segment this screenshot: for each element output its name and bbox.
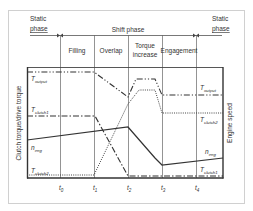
svg-text:phase: phase	[212, 25, 230, 33]
svg-text:neng: neng	[31, 144, 42, 153]
tick-t1-sub: 1	[95, 188, 98, 193]
static-phase-right-line1: Static	[212, 15, 229, 22]
static-phase-right-line2: phase	[212, 25, 230, 33]
shift-phase-label: Shift phase	[112, 26, 145, 34]
tick-t2-sub: 2	[128, 188, 132, 193]
time-gridlines	[61, 35, 197, 178]
phase-labels: Static phase Shift phase Static phase Fi…	[30, 15, 230, 58]
y-axis-left-label: Clutch torque/drive torque	[15, 85, 23, 160]
curve-labels: Toutput Tclutch1 neng Tclutch2 Toutput T…	[31, 75, 218, 176]
phase-increase-label: increase	[133, 51, 158, 58]
phase-engagement-label: Engagement	[161, 47, 198, 55]
svg-text:Tclutch2: Tclutch2	[31, 167, 49, 176]
svg-text:t2: t2	[127, 184, 132, 193]
svg-text:neng: neng	[205, 148, 216, 157]
label-t-output-left-sub: output	[35, 79, 48, 84]
svg-text:Static: Static	[212, 15, 229, 22]
svg-text:t3: t3	[161, 184, 166, 193]
label-t-clutch1-left-sub: clutch1	[35, 110, 49, 115]
label-n-eng-right-sub: eng	[209, 152, 217, 157]
curve-t-output	[27, 72, 223, 97]
curve-t-clutch2	[27, 90, 223, 175]
label-n-eng-left-sub: eng	[35, 148, 43, 153]
label-t-clutch2-right-sub: clutch2	[204, 120, 218, 125]
tick-t3-sub: 3	[163, 188, 166, 193]
svg-text:Static: Static	[30, 15, 47, 22]
phase-filling-label: Filling	[69, 47, 86, 55]
svg-text:Tclutch2: Tclutch2	[200, 116, 218, 125]
curve-n-eng	[27, 127, 223, 165]
y-axis-right-label: Engine speed	[226, 103, 234, 143]
phase-overlap-label: Overlap	[100, 47, 123, 55]
tick-t4-sub: 4	[197, 188, 200, 193]
svg-text:t0: t0	[59, 184, 64, 193]
svg-text:Toutput: Toutput	[31, 75, 48, 84]
svg-text:Tclutch1: Tclutch1	[200, 166, 218, 175]
label-t-output-right-sub: output	[204, 88, 217, 93]
time-tick-labels: t0 t1 t2 t3 t4	[59, 184, 200, 193]
label-t-clutch2-left-sub: clutch2	[35, 171, 49, 176]
svg-text:t4: t4	[195, 184, 200, 193]
svg-text:phase: phase	[30, 25, 48, 33]
svg-text:t1: t1	[93, 184, 98, 193]
label-t-clutch1-right-sub: clutch1	[204, 170, 218, 175]
svg-text:Toutput: Toutput	[200, 84, 217, 93]
static-phase-left-line1: Static	[30, 15, 47, 22]
curve-t-clutch1	[27, 116, 223, 176]
shift-phase-diagram: Static phase Shift phase Static phase Fi…	[0, 0, 253, 211]
tick-t0-sub: 0	[61, 188, 64, 193]
static-phase-left-line2: phase	[30, 25, 48, 33]
phase-torque-label: Torque	[135, 42, 155, 50]
svg-text:Tclutch1: Tclutch1	[31, 106, 49, 115]
